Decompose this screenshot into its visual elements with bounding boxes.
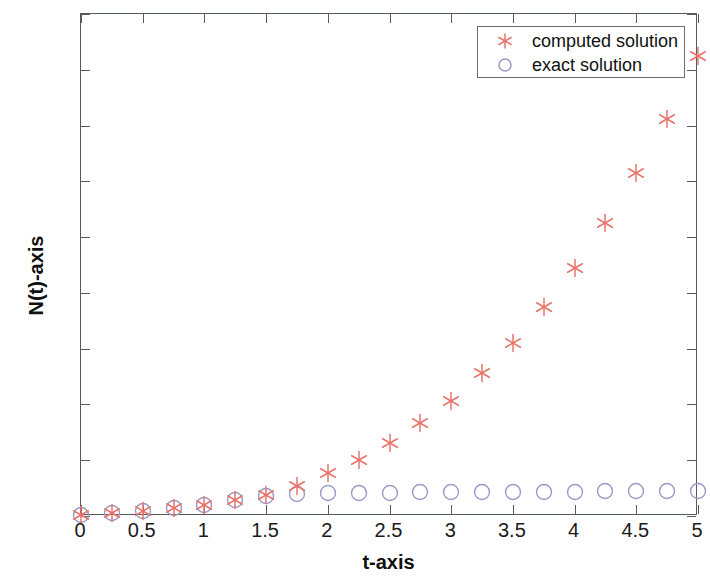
data-point-asterisk: [347, 448, 371, 472]
x-axis-tick: [204, 14, 205, 23]
data-point-circle: [347, 481, 371, 505]
data-point-asterisk: [439, 389, 463, 413]
x-axis-tick: [204, 505, 205, 514]
y-axis-tick: [81, 70, 90, 71]
data-point-asterisk: [408, 411, 432, 435]
data-point-asterisk: [624, 161, 648, 185]
x-axis-tick-label: 4.5: [621, 519, 649, 542]
asterisk-marker-icon: [478, 30, 532, 52]
data-point-circle: [532, 480, 556, 504]
data-point-asterisk: [254, 483, 278, 507]
circle-marker-icon: [478, 54, 532, 76]
y-axis-tick: [81, 181, 90, 182]
y-axis-tick: [687, 460, 696, 461]
x-axis-tick: [81, 14, 82, 23]
data-point-asterisk: [501, 331, 525, 355]
data-point-circle: [378, 481, 402, 505]
x-axis-tick-label: 0: [74, 519, 85, 542]
data-point-circle: [408, 480, 432, 504]
data-point-circle: [316, 481, 340, 505]
chart-figure: 050010001500200025003000350040004500 00.…: [0, 0, 710, 584]
y-axis-tick: [687, 14, 696, 15]
y-axis-tick: [81, 349, 90, 350]
data-point-asterisk: [655, 107, 679, 131]
x-axis-tick: [636, 505, 637, 514]
data-point-asterisk: [593, 211, 617, 235]
y-axis-tick: [687, 404, 696, 405]
y-axis-tick: [687, 293, 696, 294]
x-axis-tick-label: 0.5: [128, 519, 156, 542]
x-axis-tick-label: 2: [321, 519, 332, 542]
y-axis-tick: [687, 349, 696, 350]
x-axis-tick: [328, 14, 329, 23]
legend-entry-computed-solution: computed solution: [478, 29, 684, 53]
y-axis-tick: [687, 70, 696, 71]
x-axis-tick: [81, 505, 82, 514]
x-axis-tick: [698, 14, 699, 23]
plot-area: [81, 14, 696, 514]
x-axis-tick-label: 3.5: [498, 519, 526, 542]
data-point-circle: [563, 480, 587, 504]
x-axis-tick: [390, 14, 391, 23]
x-axis-tick: [266, 14, 267, 23]
y-axis-tick: [81, 293, 90, 294]
plot-frame: [80, 13, 697, 515]
legend-label-computed-solution: computed solution: [532, 31, 678, 52]
x-axis-tick: [143, 14, 144, 23]
x-axis-tick-labels: 00.511.522.533.544.55: [80, 519, 697, 547]
y-axis-tick: [81, 14, 90, 15]
y-axis-tick: [81, 460, 90, 461]
y-axis-tick: [81, 237, 90, 238]
data-point-circle: [470, 480, 494, 504]
x-axis-tick: [328, 505, 329, 514]
data-point-circle: [439, 480, 463, 504]
x-axis-tick-label: 3: [445, 519, 456, 542]
legend-entry-exact-solution: exact solution: [478, 53, 684, 77]
data-point-circle: [285, 482, 309, 506]
legend: computed solution exact solution: [477, 26, 685, 78]
y-axis-tick: [687, 516, 696, 517]
x-axis-tick: [266, 505, 267, 514]
x-axis-tick: [513, 14, 514, 23]
legend-label-exact-solution: exact solution: [532, 55, 642, 76]
data-point-circle: [593, 479, 617, 503]
x-axis-tick-label: 2.5: [375, 519, 403, 542]
x-axis-tick-label: 1.5: [251, 519, 279, 542]
data-point-circle: [501, 480, 525, 504]
data-point-asterisk: [316, 461, 340, 485]
x-axis-title: t-axis: [80, 551, 697, 574]
x-axis-tick: [451, 505, 452, 514]
data-point-asterisk: [285, 474, 309, 498]
y-axis-tick: [81, 404, 90, 405]
data-point-asterisk: [532, 295, 556, 319]
data-point-asterisk: [162, 496, 186, 520]
x-axis-tick-label: 1: [198, 519, 209, 542]
data-point-circle: [162, 496, 186, 520]
y-axis-tick: [687, 126, 696, 127]
data-point-circle: [223, 488, 247, 512]
x-axis-tick: [575, 14, 576, 23]
x-axis-tick: [575, 505, 576, 514]
data-point-asterisk: [686, 44, 710, 68]
data-point-asterisk: [378, 431, 402, 455]
x-axis-tick-label: 5: [691, 519, 702, 542]
data-point-circle: [655, 479, 679, 503]
y-axis-title: N(t)-axis: [25, 196, 48, 356]
y-axis-tick: [81, 516, 90, 517]
x-axis-tick: [143, 505, 144, 514]
x-axis-tick: [636, 14, 637, 23]
data-point-circle: [624, 479, 648, 503]
y-axis-tick: [687, 181, 696, 182]
data-point-asterisk: [223, 488, 247, 512]
data-point-asterisk: [563, 256, 587, 280]
x-axis-tick: [390, 505, 391, 514]
x-axis-tick-label: 4: [568, 519, 579, 542]
x-axis-tick: [513, 505, 514, 514]
x-axis-tick: [698, 505, 699, 514]
data-point-circle: [686, 479, 710, 503]
y-axis-tick: [687, 237, 696, 238]
x-axis-tick: [451, 14, 452, 23]
data-point-asterisk: [470, 361, 494, 385]
y-axis-tick: [81, 126, 90, 127]
